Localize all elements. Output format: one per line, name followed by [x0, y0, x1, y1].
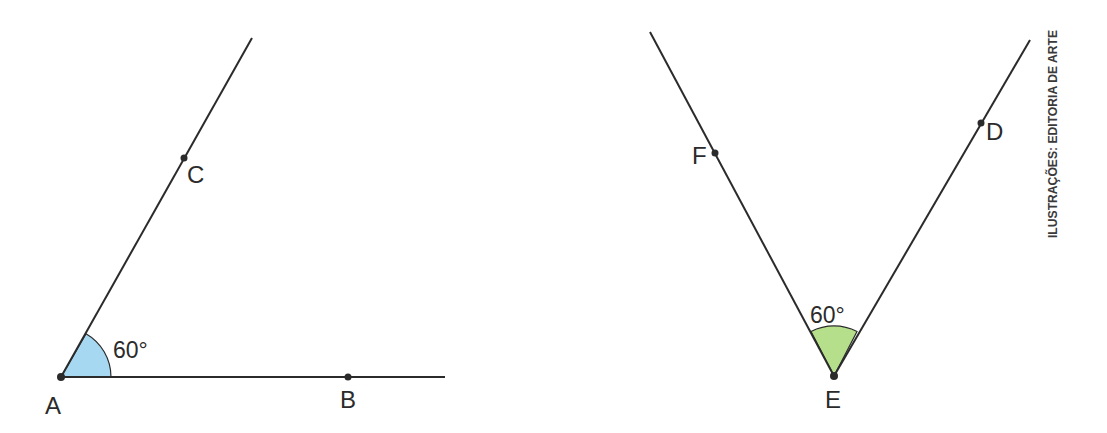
label-e: E	[825, 386, 841, 413]
ray-ed	[834, 40, 1030, 376]
point-a	[57, 373, 65, 381]
credit-text: ILUSTRAÇÕES: EDITORIA DE ARTE	[1045, 30, 1060, 238]
ray-ef	[650, 32, 834, 376]
label-d: D	[986, 118, 1003, 145]
label-f: F	[692, 142, 707, 169]
point-e	[830, 372, 838, 380]
angle-figure-e: E F D 60°	[650, 32, 1030, 413]
label-b: B	[340, 386, 356, 413]
angle-sector-a	[61, 334, 111, 377]
point-f	[712, 150, 719, 157]
point-d	[978, 120, 985, 127]
point-b	[345, 374, 352, 381]
angle-figure-a: A B C 60°	[45, 38, 445, 419]
label-c: C	[187, 161, 204, 188]
geometry-figure: A B C 60° E F D 60° ILUSTRAÇÕES: EDITORI…	[0, 0, 1107, 433]
angle-label-e: 60°	[810, 302, 845, 328]
ray-ac	[61, 38, 252, 377]
angle-sector-e	[811, 326, 857, 376]
angle-label-a: 60°	[113, 337, 148, 363]
label-a: A	[45, 392, 61, 419]
